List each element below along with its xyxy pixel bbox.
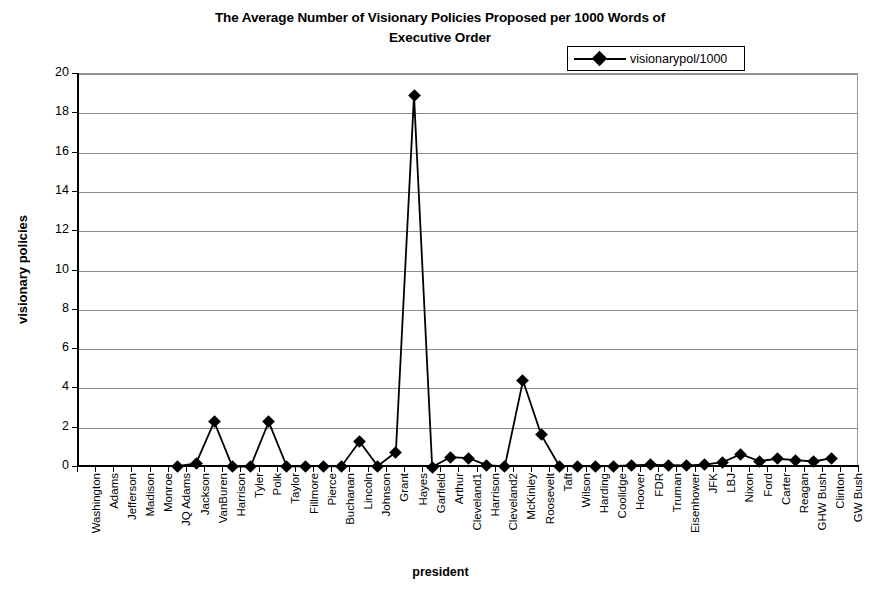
x-axis-tick-mark — [131, 467, 132, 472]
x-axis-tick-mark — [495, 467, 496, 472]
y-axis-tick-label: 10 — [29, 262, 69, 276]
x-axis-tick-label: Nixon — [744, 473, 755, 502]
y-axis-tick-mark — [72, 112, 77, 113]
x-axis-tick-label: Ford — [763, 473, 774, 497]
x-axis-tick-label: Buchanan — [345, 473, 356, 525]
x-axis-tick-label: Reagan — [799, 473, 810, 513]
x-axis-tick-label: Polk — [272, 473, 283, 495]
data-series-line — [78, 74, 859, 467]
x-axis-tick-mark — [513, 467, 514, 472]
x-axis-tick-label: Roosevelt — [545, 473, 556, 524]
x-axis-tick-mark — [349, 467, 350, 472]
series-line — [178, 96, 832, 467]
chart-container: The Average Number of Visionary Policies… — [0, 0, 881, 592]
x-axis-tick-mark — [604, 467, 605, 472]
x-axis-tick-label: McKinley — [526, 473, 537, 520]
y-axis-tick-mark — [72, 427, 77, 428]
y-axis-tick-label: 2 — [29, 419, 69, 433]
x-axis-tick-label: Cleveland1 — [472, 473, 483, 531]
y-axis-tick-mark — [72, 348, 77, 349]
x-axis-title: president — [0, 565, 881, 579]
x-axis-tick-mark — [822, 467, 823, 472]
plot-area — [77, 73, 858, 466]
x-axis-tick-label: GHW Bush — [817, 473, 828, 531]
x-axis-tick-mark — [622, 467, 623, 472]
x-axis-tick-mark — [767, 467, 768, 472]
chart-legend: visionarypol/1000 — [567, 46, 745, 71]
x-axis-tick-mark — [858, 467, 859, 472]
y-axis-tick-mark — [72, 270, 77, 271]
x-axis-tick-label: Cleveland2 — [508, 473, 519, 531]
x-axis-tick-label: Harding — [599, 473, 610, 513]
x-axis-tick-mark — [458, 467, 459, 472]
chart-title: The Average Number of Visionary Policies… — [120, 8, 760, 48]
x-axis-tick-label: Wilson — [581, 473, 592, 508]
x-axis-tick-label: JQ Adams — [181, 473, 192, 526]
y-axis-tick-label: 12 — [29, 222, 69, 236]
x-axis-tick-mark — [277, 467, 278, 472]
x-axis-tick-label: Madison — [145, 473, 156, 516]
x-axis-tick-mark — [804, 467, 805, 472]
x-axis-tick-label: Fillmore — [309, 473, 320, 514]
x-axis-tick-label: Clinton — [835, 473, 846, 509]
legend-label: visionarypol/1000 — [630, 52, 727, 66]
x-axis-tick-mark — [150, 467, 151, 472]
y-axis-tick-label: 14 — [29, 183, 69, 197]
y-axis-title: visionary policies — [15, 170, 30, 370]
x-axis-tick-mark — [368, 467, 369, 472]
x-axis-tick-mark — [422, 467, 423, 472]
x-axis-tick-label: LBJ — [726, 473, 737, 493]
x-axis-tick-label: Adams — [109, 473, 120, 509]
x-axis-tick-mark — [567, 467, 568, 472]
x-axis-tick-label: Coolidge — [617, 473, 628, 518]
x-axis-tick-label: FDR — [654, 473, 665, 497]
x-axis-tick-mark — [331, 467, 332, 472]
x-axis-tick-label: Monroe — [163, 473, 174, 512]
x-axis-tick-mark — [695, 467, 696, 472]
x-axis-tick-mark — [676, 467, 677, 472]
x-axis-tick-label: Harrison — [236, 473, 247, 516]
x-axis-tick-label: Washington — [91, 473, 102, 533]
legend-marker-icon — [574, 52, 626, 66]
x-axis-tick-mark — [295, 467, 296, 472]
x-axis-tick-mark — [731, 467, 732, 472]
y-axis-line — [77, 73, 79, 467]
x-axis-tick-label: Arthur — [454, 473, 465, 504]
x-axis-tick-mark — [549, 467, 550, 472]
x-axis-tick-mark — [477, 467, 478, 472]
x-axis-tick-mark — [840, 467, 841, 472]
x-axis-tick-label: VanBuren — [218, 473, 229, 523]
x-axis-tick-mark — [785, 467, 786, 472]
x-axis-tick-mark — [713, 467, 714, 472]
x-axis-tick-label: Hoover — [635, 473, 646, 510]
x-axis-tick-mark — [640, 467, 641, 472]
x-axis-tick-label: Jefferson — [127, 473, 138, 520]
y-axis-tick-mark — [72, 191, 77, 192]
y-axis-tick-label: 16 — [29, 144, 69, 158]
x-axis-tick-label: JFK — [708, 473, 719, 493]
x-axis-tick-mark — [222, 467, 223, 472]
chart-title-line-2: Executive Order — [120, 28, 760, 48]
x-axis-tick-mark — [259, 467, 260, 472]
x-axis-tick-mark — [386, 467, 387, 472]
y-axis-tick-mark — [72, 152, 77, 153]
x-axis-tick-mark — [95, 467, 96, 472]
x-axis-tick-label: Taylor — [290, 473, 301, 504]
x-axis-tick-mark — [658, 467, 659, 472]
x-axis-tick-label: Hayes — [418, 473, 429, 506]
x-axis-tick-mark — [186, 467, 187, 472]
x-axis-tick-mark — [586, 467, 587, 472]
x-axis-tick-mark — [240, 467, 241, 472]
x-axis-tick-mark — [749, 467, 750, 472]
y-axis-tick-mark — [72, 230, 77, 231]
y-axis-tick-label: 6 — [29, 340, 69, 354]
x-axis-tick-mark — [440, 467, 441, 472]
x-axis-tick-label: Eisenhower — [690, 473, 701, 533]
y-axis-tick-label: 18 — [29, 104, 69, 118]
y-axis-tick-label: 8 — [29, 301, 69, 315]
x-axis-tick-mark — [77, 467, 78, 472]
y-axis-tick-label: 4 — [29, 379, 69, 393]
y-axis-tick-label: 20 — [29, 65, 69, 79]
x-axis-tick-label: Johnson — [381, 473, 392, 516]
x-axis-tick-label: Garfield — [436, 473, 447, 513]
